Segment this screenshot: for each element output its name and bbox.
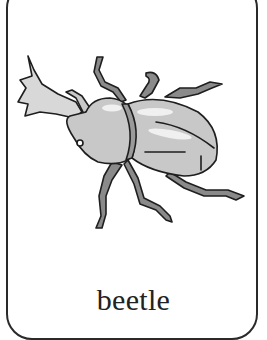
card-word: beetle — [0, 283, 267, 317]
